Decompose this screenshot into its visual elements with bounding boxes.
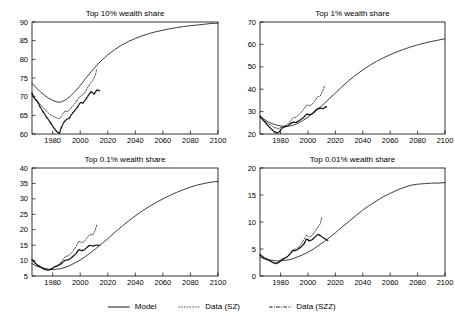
chart-top001: Top 0.01% wealth share051015201980200020… [228, 152, 455, 298]
y-tick-label: 50 [248, 62, 256, 71]
x-tick-label: 2100 [437, 136, 454, 145]
x-tick-label: 2040 [127, 136, 144, 145]
series-data-szz [32, 245, 100, 270]
plot-frame [32, 168, 218, 276]
chart-top10: Top 10% wealth share60657075808590198020… [0, 6, 228, 156]
series-data-szz [32, 90, 100, 133]
legend-label-sz: Data (SZ) [205, 302, 240, 311]
x-tick-label: 2020 [327, 136, 344, 145]
x-tick-label: 2080 [409, 278, 426, 287]
panel-title: Top 0.1% wealth share [85, 155, 166, 164]
y-tick-label: 5 [252, 245, 256, 254]
y-tick-label: 15 [248, 191, 256, 200]
panel-top001: Top 0.01% wealth share051015201980200020… [228, 152, 455, 298]
y-tick-label: 85 [20, 36, 28, 45]
y-tick-label: 40 [20, 164, 28, 173]
x-tick-label: 2040 [354, 136, 371, 145]
x-tick-label: 2000 [72, 278, 89, 287]
x-tick-label: 2080 [182, 136, 199, 145]
x-tick-label: 2000 [72, 136, 89, 145]
x-tick-label: 2020 [327, 278, 344, 287]
x-tick-label: 1980 [44, 136, 61, 145]
x-tick-label: 2060 [155, 278, 172, 287]
x-tick-label: 2100 [210, 136, 227, 145]
chart-top1: Top 1% wealth share203040506070198020002… [228, 6, 455, 156]
y-tick-label: 60 [20, 130, 28, 139]
wealth-share-figure: Top 10% wealth share60657075808590198020… [0, 0, 455, 328]
x-tick-label: 2020 [99, 136, 116, 145]
y-tick-label: 40 [248, 85, 256, 94]
y-tick-label: 80 [20, 55, 28, 64]
x-tick-label: 2100 [437, 278, 454, 287]
y-tick-label: 5 [24, 272, 28, 281]
y-tick-label: 20 [248, 130, 256, 139]
y-tick-label: 20 [20, 225, 28, 234]
y-tick-label: 25 [20, 210, 28, 219]
panel-title: Top 0.01% wealth share [310, 155, 396, 164]
y-tick-label: 15 [20, 241, 28, 250]
series-model [32, 181, 218, 269]
series-data-szz [260, 107, 327, 133]
series-model [260, 183, 445, 261]
x-tick-label: 2000 [300, 278, 317, 287]
y-tick-label: 75 [20, 74, 28, 83]
x-tick-label: 2080 [409, 136, 426, 145]
x-tick-label: 2040 [127, 278, 144, 287]
x-tick-label: 1980 [272, 278, 289, 287]
y-tick-label: 10 [20, 256, 28, 265]
y-tick-label: 70 [248, 18, 256, 27]
x-tick-label: 2060 [382, 136, 399, 145]
y-tick-label: 60 [248, 40, 256, 49]
y-tick-label: 20 [248, 164, 256, 173]
chart-top01: Top 0.1% wealth share5101520253035401980… [0, 152, 228, 298]
y-tick-label: 30 [248, 107, 256, 116]
series-data-sz [260, 218, 322, 263]
panel-top1: Top 1% wealth share203040506070198020002… [228, 6, 455, 156]
legend-svg: ModelData (SZ)Data (SZZ) [0, 296, 455, 318]
x-tick-label: 2020 [99, 278, 116, 287]
x-tick-label: 1980 [272, 136, 289, 145]
series-model [32, 23, 218, 102]
legend-label-szz: Data (SZZ) [296, 302, 336, 311]
x-tick-label: 1980 [44, 278, 61, 287]
panel-top01: Top 0.1% wealth share5101520253035401980… [0, 152, 228, 298]
series-model [260, 39, 445, 127]
y-tick-label: 65 [20, 111, 28, 120]
x-tick-label: 2060 [155, 136, 172, 145]
y-tick-label: 30 [20, 194, 28, 203]
figure-legend: ModelData (SZ)Data (SZZ) [0, 296, 455, 318]
panel-top10: Top 10% wealth share60657075808590198020… [0, 6, 228, 156]
x-tick-label: 2100 [210, 278, 227, 287]
y-tick-label: 35 [20, 179, 28, 188]
panel-title: Top 10% wealth share [86, 9, 165, 18]
x-tick-label: 2060 [382, 278, 399, 287]
y-tick-label: 0 [252, 272, 256, 281]
panel-title: Top 1% wealth share [315, 9, 390, 18]
x-tick-label: 2080 [182, 278, 199, 287]
y-tick-label: 10 [248, 218, 256, 227]
y-tick-label: 90 [20, 18, 28, 27]
plot-frame [32, 22, 218, 134]
y-tick-label: 70 [20, 92, 28, 101]
x-tick-label: 2000 [300, 136, 317, 145]
x-tick-label: 2040 [354, 278, 371, 287]
legend-label-model: Model [135, 302, 157, 311]
